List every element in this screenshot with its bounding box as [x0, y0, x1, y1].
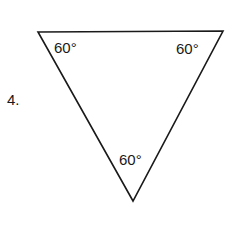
angle-label-top-right: 60° — [176, 41, 199, 56]
angle-label-bottom: 60° — [119, 152, 142, 167]
problem-number: 4. — [7, 91, 20, 108]
angle-label-top-left: 60° — [54, 40, 77, 55]
triangle-diagram — [0, 0, 238, 240]
